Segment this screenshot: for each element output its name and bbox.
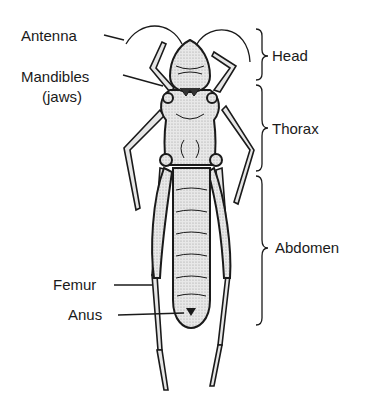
label-mandibles-jaws: (jaws) — [42, 88, 82, 105]
label-thorax: Thorax — [272, 120, 319, 137]
label-mandibles: Mandibles — [21, 68, 89, 85]
insect-anatomy-diagram: Antenna Mandibles (jaws) Femur Anus Head… — [0, 0, 389, 420]
label-anus: Anus — [68, 306, 102, 323]
section-braces — [256, 29, 268, 325]
label-abdomen: Abdomen — [275, 239, 339, 256]
label-head: Head — [272, 47, 308, 64]
thorax-body — [160, 90, 222, 166]
label-femur: Femur — [53, 276, 96, 293]
head-body — [170, 40, 210, 96]
abdomen-body — [173, 168, 210, 328]
label-antenna: Antenna — [21, 27, 78, 44]
